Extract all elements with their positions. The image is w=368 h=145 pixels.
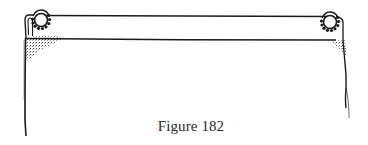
figure-caption: Figure 182 [0, 118, 368, 135]
right-ring [320, 12, 340, 32]
curtain-rod [25, 15, 343, 40]
figure-illustration: Figure 182 [0, 0, 368, 145]
shading-left [25, 36, 62, 62]
left-ring [31, 10, 51, 30]
